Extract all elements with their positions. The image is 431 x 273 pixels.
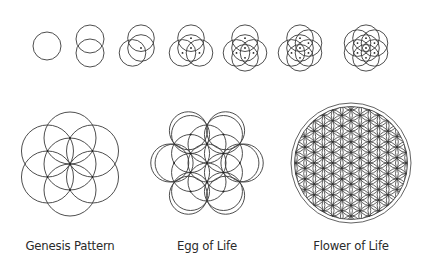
intersection-dot bbox=[69, 163, 71, 165]
intersection-dot bbox=[206, 143, 208, 145]
flower-circle bbox=[331, 94, 352, 115]
intersection-dot bbox=[365, 57, 367, 59]
intersection-dot bbox=[357, 52, 359, 54]
intersection-dot bbox=[223, 153, 225, 155]
flower-circle bbox=[313, 211, 334, 232]
egg-of-life-figure bbox=[151, 112, 263, 215]
intersection-dot bbox=[223, 191, 225, 193]
intersection-dot bbox=[173, 162, 175, 164]
flower-of-life-label: Flower of Life bbox=[313, 238, 389, 253]
genesis-pattern-figure bbox=[21, 112, 118, 216]
flower-circle bbox=[322, 216, 343, 237]
flower-circle bbox=[331, 211, 352, 232]
intersection-dot bbox=[299, 57, 301, 59]
flower-circle bbox=[295, 105, 316, 126]
intersection-dot bbox=[365, 47, 367, 49]
genesis-pattern-label: Genesis Pattern bbox=[25, 238, 114, 253]
flower-circle bbox=[304, 99, 325, 120]
circle bbox=[33, 32, 61, 60]
intersection-dot bbox=[206, 162, 208, 164]
intersection-dot bbox=[47, 150, 49, 152]
flower-circle bbox=[386, 105, 407, 126]
intersection-dot bbox=[92, 176, 94, 178]
progression-circle bbox=[119, 40, 146, 67]
intersection-dot bbox=[236, 52, 238, 54]
intersection-dot bbox=[374, 42, 376, 44]
intersection-dot bbox=[244, 37, 246, 39]
flower-circle bbox=[276, 137, 297, 158]
intersection-dot bbox=[190, 37, 192, 39]
intersection-dot bbox=[190, 134, 192, 136]
egg-outer-circle bbox=[225, 144, 263, 182]
egg-of-life-label: Egg of Life bbox=[177, 238, 237, 253]
intersection-dot bbox=[190, 191, 192, 193]
intersection-dot bbox=[299, 37, 301, 39]
flower-circle bbox=[359, 216, 380, 237]
flower-circle bbox=[322, 89, 343, 110]
intersection-dot bbox=[308, 52, 310, 54]
flower-circle bbox=[276, 168, 297, 189]
flower-circle bbox=[350, 94, 371, 115]
flower-circle bbox=[377, 99, 398, 120]
intersection-dot bbox=[182, 52, 184, 54]
intersection-dot bbox=[244, 57, 246, 59]
flower-circle bbox=[304, 205, 325, 226]
intersection-dot bbox=[223, 172, 225, 174]
flower-of-life-figure bbox=[276, 89, 426, 237]
intersection-dot bbox=[69, 189, 71, 191]
flower-circle bbox=[350, 211, 371, 232]
intersection-dot bbox=[140, 47, 142, 49]
flower-circle bbox=[405, 137, 426, 158]
intersection-dot bbox=[291, 52, 293, 54]
flower-circle bbox=[359, 89, 380, 110]
intersection-dot bbox=[47, 176, 49, 178]
flower-circle bbox=[377, 205, 398, 226]
intersection-dot bbox=[206, 181, 208, 183]
intersection-dot bbox=[244, 47, 246, 49]
intersection-dot bbox=[190, 153, 192, 155]
flower-circle bbox=[295, 200, 316, 221]
flower-grid bbox=[276, 89, 426, 237]
intersection-dot bbox=[299, 47, 301, 49]
intersection-dot bbox=[239, 162, 241, 164]
intersection-dot bbox=[223, 134, 225, 136]
intersection-dot bbox=[374, 52, 376, 54]
intersection-dot bbox=[357, 42, 359, 44]
flower-circle bbox=[368, 211, 389, 232]
intersection-dot bbox=[92, 150, 94, 152]
flower-circle bbox=[313, 94, 334, 115]
intersection-dot bbox=[365, 37, 367, 39]
flower-circle bbox=[368, 94, 389, 115]
egg-outer-circle bbox=[151, 144, 189, 182]
sacred-geometry-diagram bbox=[0, 0, 431, 273]
intersection-dot bbox=[253, 52, 255, 54]
flower-circle bbox=[386, 200, 407, 221]
intersection-dot bbox=[308, 42, 310, 44]
progression-row bbox=[33, 25, 388, 71]
intersection-dot bbox=[199, 52, 201, 54]
intersection-dot bbox=[190, 172, 192, 174]
intersection-dot bbox=[69, 137, 71, 139]
intersection-dot bbox=[190, 47, 192, 49]
flower-circle bbox=[405, 168, 426, 189]
